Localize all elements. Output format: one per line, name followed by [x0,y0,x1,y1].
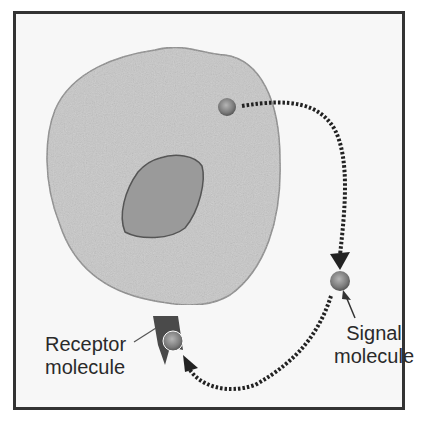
receptor-label: Receptor molecule [45,333,126,379]
signal-label-line1: Signal [334,322,414,345]
receptor-label-line2: molecule [45,356,126,379]
signal-label: Signal molecule [334,322,414,368]
arrow-head-release-icon [330,252,350,270]
arrow-head-binding-icon [183,355,198,372]
receptor-label-line1: Receptor [45,333,126,356]
signal-label-line2: molecule [334,345,414,368]
signal-molecule-free [330,271,350,291]
signal-molecule-bound [163,331,183,351]
dotted-arrow-binding [190,296,331,389]
signal-molecule-origin [218,98,236,116]
receptor-pointer-line [134,328,156,342]
signal-pointer-head-icon [342,290,351,300]
